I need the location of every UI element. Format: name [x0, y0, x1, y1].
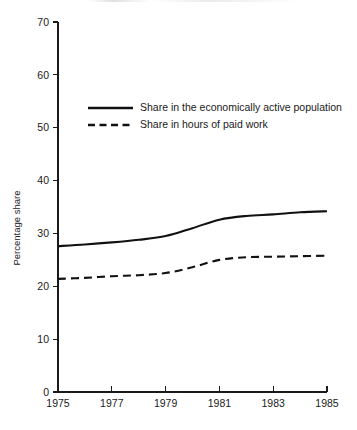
y-tick-marks	[53, 22, 58, 392]
y-tick-labels: 010203040506070	[37, 16, 49, 398]
y-tick-label: 0	[43, 386, 49, 398]
y-tick-label: 70	[37, 16, 49, 28]
y-tick-label: 30	[37, 227, 49, 239]
x-tick-label: 1975	[46, 397, 70, 409]
x-tick-label: 1979	[154, 397, 178, 409]
y-tick-label: 20	[37, 280, 49, 292]
series-line-1	[58, 256, 327, 279]
chart-container: 010203040506070 Percentage share 1975197…	[0, 0, 357, 430]
y-tick-label: 40	[37, 174, 49, 186]
y-tick-label: 60	[37, 69, 49, 81]
x-tick-marks	[112, 386, 327, 392]
y-axis-title: Percentage share	[11, 191, 22, 266]
legend-label-1: Share in hours of paid work	[140, 118, 269, 130]
x-tick-labels: 197519771979198119831985	[46, 397, 339, 409]
x-tick-label: 1981	[208, 397, 232, 409]
line-chart-svg: 010203040506070 Percentage share 1975197…	[0, 0, 357, 430]
series-line-0	[58, 211, 327, 246]
x-tick-label: 1983	[262, 397, 286, 409]
legend-label-0: Share in the economically active populat…	[140, 101, 342, 113]
x-axis-group: 197519771979198119831985	[46, 386, 339, 409]
x-tick-label: 1985	[315, 397, 339, 409]
chart-legend: Share in the economically active populat…	[88, 101, 342, 130]
y-axis-group: 010203040506070 Percentage share	[11, 16, 58, 398]
x-tick-label: 1977	[100, 397, 124, 409]
y-tick-label: 50	[37, 121, 49, 133]
y-tick-label: 10	[37, 333, 49, 345]
series-lines-group	[58, 211, 327, 279]
